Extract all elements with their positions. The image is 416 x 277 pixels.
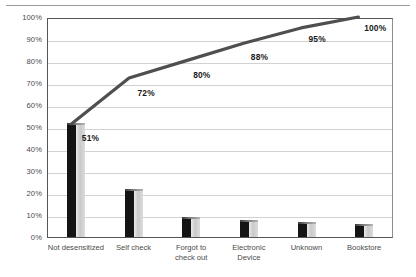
y-tick-50: 50% bbox=[6, 123, 42, 132]
y-tick-20: 20% bbox=[6, 189, 42, 198]
x-label-0: Not desensitized bbox=[47, 243, 105, 253]
y-tick-60: 60% bbox=[6, 101, 42, 110]
cumulative-line-series bbox=[48, 19, 392, 237]
cumulative-label-0: 51% bbox=[82, 133, 99, 143]
y-tick-70: 70% bbox=[6, 79, 42, 88]
x-label-3: Electronic Device bbox=[220, 243, 278, 262]
y-tick-80: 80% bbox=[6, 57, 42, 66]
pareto-chart-figure: 100%90%80%70%60%50%40%30%20%10%0% 51%72%… bbox=[0, 0, 416, 277]
cumulative-label-2: 80% bbox=[193, 70, 210, 80]
y-tick-90: 90% bbox=[6, 35, 42, 44]
cumulative-label-5: 100% bbox=[364, 23, 386, 33]
y-tick-0: 0% bbox=[6, 233, 42, 242]
x-axis-category-labels: Not desensitizedSelf checkForgot to chec… bbox=[47, 241, 393, 275]
x-label-5: Bookstore bbox=[335, 243, 393, 253]
x-label-1: Self check bbox=[105, 243, 163, 253]
header-divider bbox=[6, 5, 410, 6]
y-tick-30: 30% bbox=[6, 167, 42, 176]
cumulative-label-4: 95% bbox=[309, 34, 326, 44]
x-label-4: Unknown bbox=[278, 243, 336, 253]
y-tick-40: 40% bbox=[6, 145, 42, 154]
x-label-2: Forgot to check out bbox=[162, 243, 220, 262]
cumulative-label-1: 72% bbox=[138, 88, 155, 98]
y-tick-10: 10% bbox=[6, 211, 42, 220]
cumulative-label-3: 88% bbox=[251, 52, 268, 62]
plot-area: 51%72%80%88%95%100% bbox=[47, 18, 393, 238]
y-tick-100: 100% bbox=[6, 13, 42, 22]
